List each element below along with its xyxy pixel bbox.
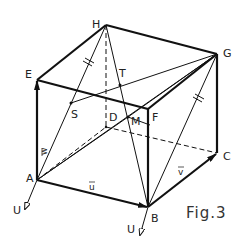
edge-DC bbox=[106, 127, 217, 153]
label-B: B bbox=[151, 212, 159, 225]
label-C: C bbox=[223, 150, 231, 163]
tick-mark bbox=[83, 61, 92, 66]
label-U-B: U bbox=[127, 223, 135, 236]
figure-caption: Fig.3 bbox=[186, 204, 227, 222]
edge-FG bbox=[148, 54, 217, 109]
point-T bbox=[119, 84, 122, 87]
label-u: u bbox=[89, 182, 95, 192]
line-MG bbox=[128, 54, 217, 117]
vector-v bbox=[148, 154, 216, 207]
edge-EH bbox=[37, 25, 106, 80]
edge-EF bbox=[37, 80, 148, 109]
vector-label-u: u bbox=[89, 182, 95, 192]
line-BG bbox=[148, 54, 217, 207]
label-S: S bbox=[71, 108, 78, 121]
label-M: M bbox=[131, 115, 141, 128]
label-F: F bbox=[152, 111, 158, 124]
origin-arrow-B bbox=[140, 207, 148, 235]
point-M bbox=[127, 116, 130, 119]
edge-HG bbox=[106, 25, 217, 54]
vector-edges bbox=[37, 81, 216, 207]
vector-label-v: v bbox=[178, 167, 184, 177]
cube-diagram: H G E F T S D M A B C U U w u v Fig.3 bbox=[0, 0, 246, 250]
label-T: T bbox=[118, 67, 126, 80]
vector-label-w: w bbox=[39, 148, 49, 156]
tick-mark bbox=[195, 94, 204, 99]
label-D: D bbox=[109, 111, 117, 124]
label-A: A bbox=[26, 172, 34, 185]
label-E: E bbox=[25, 68, 32, 81]
label-G: G bbox=[223, 47, 232, 60]
line-ST bbox=[71, 54, 217, 103]
label-U-A: U bbox=[13, 204, 21, 217]
label-w: w bbox=[39, 148, 49, 155]
point-S bbox=[70, 102, 73, 105]
label-H: H bbox=[92, 18, 100, 31]
label-v: v bbox=[178, 167, 184, 177]
point-D bbox=[105, 126, 107, 128]
